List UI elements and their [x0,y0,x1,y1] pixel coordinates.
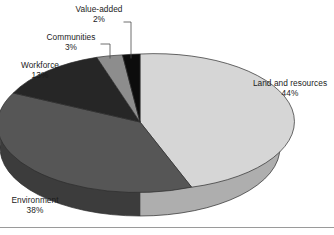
slice-label-land-and-resources-name: Land and resources [253,78,327,88]
slice-label-communities: Communities 3% [42,32,100,52]
leader-line-value-added [124,22,131,58]
slice-label-land-and-resources-percent: 44% [247,88,333,98]
slice-label-workforce-name: Workforce [21,60,59,70]
slice-label-environment: Environment 38% [4,195,66,215]
slice-label-value-added-percent: 2% [71,14,127,24]
leader-lines [101,22,131,58]
pie-chart-figure: Value-added 2% Communities 3% Workforce … [0,0,334,235]
slice-label-communities-name: Communities [47,32,96,42]
slice-label-value-added-name: Value-added [76,4,123,14]
slice-label-workforce: Workforce 13% [14,60,66,80]
slice-label-workforce-percent: 13% [14,70,66,80]
slice-label-land-and-resources: Land and resources 44% [247,78,333,98]
slice-label-environment-percent: 38% [4,205,66,215]
slice-label-environment-name: Environment [11,195,58,205]
slice-label-value-added: Value-added 2% [71,4,127,24]
slice-label-communities-percent: 3% [42,42,100,52]
